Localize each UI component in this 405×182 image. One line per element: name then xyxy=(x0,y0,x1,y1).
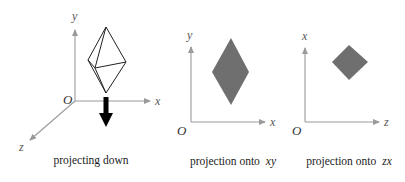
axes-3d xyxy=(30,30,150,140)
origin-label: O xyxy=(63,92,73,107)
origin-label: O xyxy=(177,123,187,138)
caption-projecting-down: projecting down xyxy=(53,154,128,167)
projection-rhombus-zx xyxy=(332,45,368,80)
panel-projection-xy: y x O projection ontoxy xyxy=(177,28,277,168)
y-axis-label: y xyxy=(71,9,78,23)
panel-projection-zx: x z O projection ontozx xyxy=(292,29,393,168)
caption-projection-xy: projection ontoxy xyxy=(190,155,277,168)
z-axis-label: z xyxy=(18,140,24,154)
z-axis-label: z xyxy=(383,115,389,129)
origin-label: O xyxy=(292,123,302,138)
octahedron-solid xyxy=(88,27,126,93)
projection-rhombus-xy xyxy=(212,38,249,105)
panel-projecting-down: y x z O projecting down xyxy=(18,9,161,167)
x-axis-label: x xyxy=(154,94,161,108)
caption-projection-zx: projection ontozx xyxy=(306,155,392,168)
x-axis-label: x xyxy=(301,29,308,43)
projection-figure: y x z O projecting down y x O xyxy=(0,0,405,182)
x-axis-label: x xyxy=(269,115,276,129)
y-axis-label: y xyxy=(186,28,193,42)
